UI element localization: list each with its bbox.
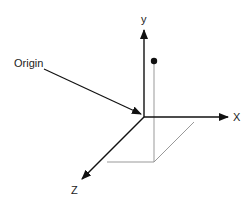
projection-z-line: [154, 122, 194, 162]
origin-label: Origin: [14, 57, 43, 69]
y-axis-label: y: [141, 13, 147, 25]
origin-callout-arrow: [44, 69, 141, 114]
projection-lines: [107, 64, 194, 162]
coordinate-diagram: y X Z Origin: [0, 0, 251, 203]
data-point: [151, 58, 157, 64]
z-axis-label: Z: [71, 184, 78, 196]
x-axis-label: X: [233, 111, 241, 123]
z-axis: [82, 117, 144, 179]
